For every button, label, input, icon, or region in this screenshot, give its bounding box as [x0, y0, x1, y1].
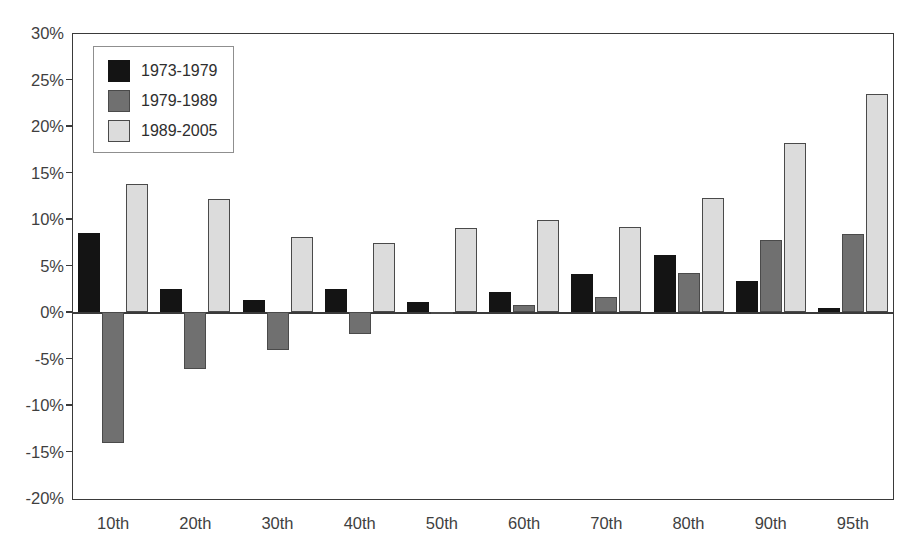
legend-label-0: 1973-1979 — [141, 63, 218, 79]
bar — [818, 308, 840, 312]
y-tick-mark — [66, 172, 73, 174]
bar — [654, 255, 676, 312]
y-tick-label: -20% — [6, 490, 64, 507]
bar — [78, 233, 100, 312]
x-tick-label: 80th — [647, 515, 729, 532]
y-tick-label: -15% — [6, 443, 64, 460]
bar — [702, 198, 724, 312]
y-tick-label: 25% — [6, 71, 64, 88]
bar — [842, 234, 864, 312]
x-tick-label: 40th — [319, 515, 401, 532]
y-tick-mark — [66, 404, 73, 406]
bar — [126, 184, 148, 312]
bar — [571, 274, 593, 312]
bar — [736, 281, 758, 312]
legend-item-1: 1979-1989 — [108, 89, 218, 113]
x-tick-label: 60th — [483, 515, 565, 532]
y-tick-mark — [66, 451, 73, 453]
x-tick-label: 70th — [565, 515, 647, 532]
bar — [866, 94, 888, 312]
y-tick-mark — [66, 358, 73, 360]
y-tick-label: 20% — [6, 118, 64, 135]
y-tick-mark — [66, 125, 73, 127]
bar — [102, 312, 124, 443]
x-tick-label: 90th — [730, 515, 812, 532]
x-tick-label: 20th — [154, 515, 236, 532]
bar — [678, 273, 700, 312]
legend-swatch-icon-2 — [108, 120, 130, 142]
x-tick-label: 30th — [236, 515, 318, 532]
bar — [431, 312, 453, 314]
y-tick-mark — [66, 311, 73, 313]
legend-item-0: 1973-1979 — [108, 59, 218, 83]
y-tick-mark — [66, 265, 73, 267]
bar — [243, 300, 265, 312]
legend-swatch-icon-0 — [108, 60, 130, 82]
bar — [619, 227, 641, 312]
x-tick-label: 95th — [812, 515, 894, 532]
bar — [784, 143, 806, 312]
x-tick-label: 50th — [401, 515, 483, 532]
bar — [267, 312, 289, 350]
x-tick-label: 10th — [72, 515, 154, 532]
bar — [160, 289, 182, 312]
bar — [489, 292, 511, 312]
legend-label-2: 1989-2005 — [141, 123, 218, 139]
bar — [208, 199, 230, 312]
y-tick-label: -10% — [6, 397, 64, 414]
bar — [595, 297, 617, 312]
y-tick-label: -5% — [6, 350, 64, 367]
bar — [291, 237, 313, 312]
bar — [537, 220, 559, 312]
bar — [325, 289, 347, 312]
y-axis: 30%25%20%15%10%5%0%-5%-10%-15%-20% — [0, 0, 64, 560]
y-tick-label: 15% — [6, 164, 64, 181]
y-tick-mark — [66, 218, 73, 220]
bar — [349, 312, 371, 334]
bar — [760, 240, 782, 312]
bar — [184, 312, 206, 369]
y-tick-label: 30% — [6, 25, 64, 42]
legend-item-2: 1989-2005 — [108, 119, 218, 143]
y-tick-label: 5% — [6, 257, 64, 274]
y-tick-label: 10% — [6, 211, 64, 228]
legend-label-1: 1979-1989 — [141, 93, 218, 109]
bar — [407, 302, 429, 312]
bar — [513, 305, 535, 312]
y-tick-mark — [66, 79, 73, 81]
bar-chart: 30%25%20%15%10%5%0%-5%-10%-15%-20% 10th2… — [0, 0, 920, 560]
y-tick-label: 0% — [6, 304, 64, 321]
bar — [455, 228, 477, 312]
legend-swatch-icon-1 — [108, 90, 130, 112]
bar — [373, 243, 395, 312]
legend: 1973-1979 1979-1989 1989-2005 — [93, 46, 234, 153]
